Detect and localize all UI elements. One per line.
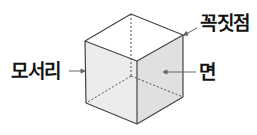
vertex-pointer-arrow (183, 28, 197, 36)
face-label: 면 (199, 62, 216, 82)
cube-diagram: 모서리 꼭짓점 면 (0, 0, 257, 135)
vertex-label: 꼭짓점 (200, 13, 250, 33)
edge-pointer-arrow (69, 69, 85, 73)
edge-label: 모서리 (11, 61, 61, 81)
